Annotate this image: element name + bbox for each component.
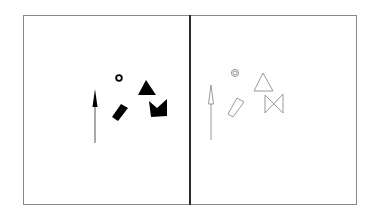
left-panel [93, 75, 168, 143]
triangle-icon [138, 80, 156, 95]
notched-square-icon [149, 99, 167, 117]
double-ring-icon [231, 69, 238, 76]
triangle-outline-icon [254, 73, 273, 91]
arrow-outline-icon [209, 85, 214, 140]
ring-icon [116, 75, 122, 81]
wedge-icon [112, 104, 128, 121]
bowtie-icon [265, 94, 283, 113]
right-panel [209, 69, 284, 140]
arrow-icon [93, 89, 98, 143]
wedge-outline-icon [228, 98, 244, 117]
figure-canvas [0, 0, 373, 216]
